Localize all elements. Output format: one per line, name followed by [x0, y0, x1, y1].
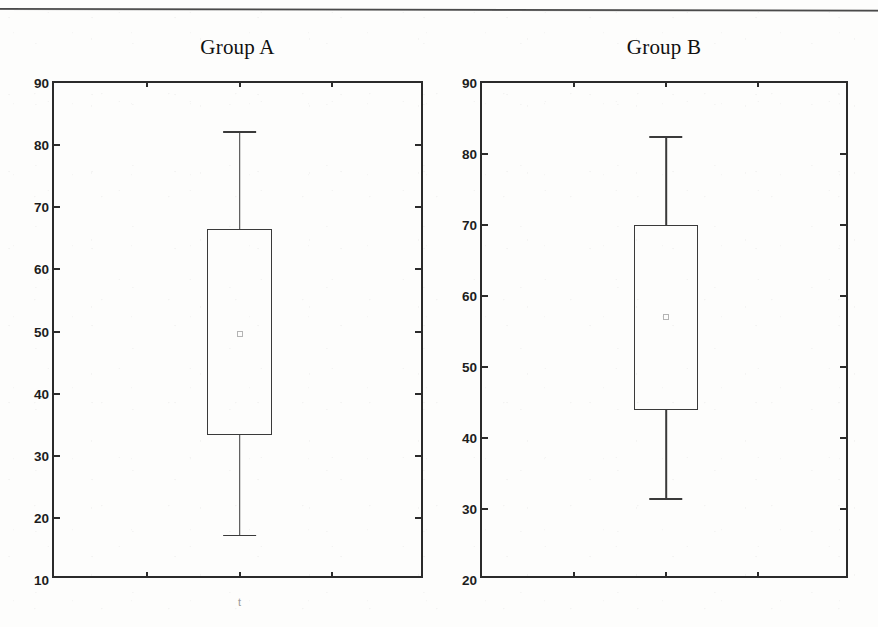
- x-axis-tick-mark: [331, 572, 333, 576]
- y-axis-tick-mark: [840, 508, 846, 510]
- y-axis-tick-label: 50: [462, 360, 477, 375]
- y-axis-tick-label: 70: [34, 200, 49, 215]
- y-axis-tick-label: 60: [462, 289, 477, 304]
- y-axis-tick-label: 20: [462, 573, 477, 588]
- y-axis-tick-label: 60: [34, 262, 49, 277]
- y-axis-tick-mark: [54, 455, 60, 457]
- y-axis-tick-label: 30: [34, 448, 49, 463]
- x-axis-tick-mark: [239, 83, 241, 87]
- y-axis-tick-mark: [840, 153, 846, 155]
- boxplot-lower-cap: [223, 535, 257, 537]
- plot-frame-group-b: 9080706050403020: [480, 81, 848, 578]
- y-axis-tick-mark: [482, 437, 488, 439]
- figure-page: Group A 908070605040302010t Group B 9080…: [0, 0, 878, 627]
- x-axis-tick-mark: [573, 572, 575, 576]
- y-axis-tick-label: 20: [34, 510, 49, 525]
- y-axis-tick-mark: [415, 331, 421, 333]
- y-axis-tick-label: 50: [34, 324, 49, 339]
- y-axis-tick-mark: [415, 206, 421, 208]
- plot-frame-group-a: 908070605040302010t: [52, 81, 423, 578]
- page-separator-rule: [0, 8, 878, 12]
- y-axis-tick-mark: [415, 455, 421, 457]
- y-axis-tick-mark: [54, 206, 60, 208]
- boxplot-upper-cap: [223, 131, 257, 133]
- y-axis-tick-mark: [840, 224, 846, 226]
- y-axis-tick-mark: [840, 295, 846, 297]
- y-axis-tick-mark: [415, 517, 421, 519]
- x-axis-tick-mark: [757, 83, 759, 87]
- boxplot-lower-whisker: [665, 410, 667, 499]
- boxplot-upper-cap: [649, 136, 682, 138]
- x-axis-mark: t: [238, 596, 241, 608]
- y-axis-tick-mark: [840, 366, 846, 368]
- boxplot-lower-whisker: [239, 435, 241, 535]
- y-axis-tick-label: 80: [34, 138, 49, 153]
- y-axis-tick-mark: [415, 268, 421, 270]
- y-axis-tick-label: 40: [462, 431, 477, 446]
- y-axis-tick-mark: [840, 437, 846, 439]
- x-axis-tick-mark: [665, 83, 667, 87]
- y-axis-tick-label: 90: [462, 76, 477, 91]
- boxplot-upper-whisker: [665, 136, 667, 225]
- y-axis-tick-mark: [54, 268, 60, 270]
- y-axis-tick-label: 80: [462, 147, 477, 162]
- y-axis-tick-mark: [54, 144, 60, 146]
- x-axis-tick-mark: [665, 572, 667, 576]
- y-axis-tick-mark: [482, 508, 488, 510]
- y-axis-tick-label: 10: [34, 573, 49, 588]
- boxplot-mean-marker: [663, 314, 669, 320]
- y-axis-tick-mark: [482, 153, 488, 155]
- y-axis-tick-mark: [482, 224, 488, 226]
- y-axis-tick-mark: [415, 393, 421, 395]
- y-axis-tick-mark: [54, 517, 60, 519]
- y-axis-tick-mark: [482, 366, 488, 368]
- y-axis-tick-mark: [415, 144, 421, 146]
- y-axis-tick-mark: [482, 295, 488, 297]
- x-axis-tick-mark: [331, 83, 333, 87]
- x-axis-tick-mark: [146, 572, 148, 576]
- x-axis-tick-mark: [146, 83, 148, 87]
- y-axis-tick-mark: [54, 331, 60, 333]
- x-axis-tick-mark: [757, 572, 759, 576]
- x-axis-tick-mark: [239, 572, 241, 576]
- y-axis-tick-label: 70: [462, 218, 477, 233]
- boxplot-mean-marker: [237, 331, 243, 337]
- y-axis-tick-label: 30: [462, 502, 477, 517]
- y-axis-tick-label: 90: [34, 76, 49, 91]
- boxplot-upper-whisker: [239, 131, 241, 229]
- x-axis-tick-mark: [573, 83, 575, 87]
- panel-title-group-b: Group B: [480, 35, 848, 60]
- y-axis-tick-label: 40: [34, 386, 49, 401]
- panel-title-group-a: Group A: [52, 35, 423, 60]
- boxplot-lower-cap: [649, 498, 682, 500]
- y-axis-tick-mark: [54, 393, 60, 395]
